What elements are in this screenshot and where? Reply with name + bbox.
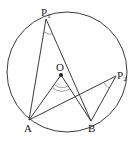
angle-mark-p2 bbox=[104, 82, 109, 88]
label-p2: P2 bbox=[117, 69, 127, 83]
label-b: B bbox=[88, 122, 95, 134]
segment-p1-a bbox=[29, 19, 46, 120]
center-point bbox=[59, 73, 63, 77]
segment-o-b bbox=[61, 75, 91, 121]
circle-theorem-diagram: P1 P2 O A B bbox=[0, 0, 134, 142]
label-a: A bbox=[24, 122, 32, 134]
circle bbox=[7, 12, 127, 132]
label-p1: P1 bbox=[41, 6, 51, 20]
angle-mark-o-inner bbox=[55, 85, 68, 88]
angle-mark-o-outer bbox=[53, 88, 70, 91]
segment-o-a bbox=[29, 75, 61, 120]
segment-p2-a bbox=[29, 76, 116, 120]
label-o: O bbox=[56, 61, 64, 73]
